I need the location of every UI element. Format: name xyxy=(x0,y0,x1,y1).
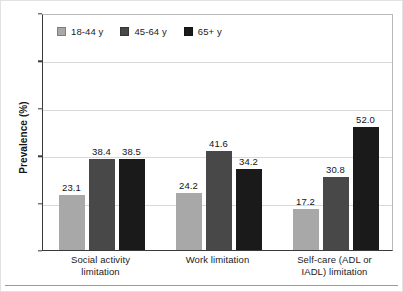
bar-value-label: 17.2 xyxy=(296,196,315,207)
x-category-label-line: IADL) limitation xyxy=(276,266,393,278)
bar-column[interactable]: 30.8 xyxy=(323,164,349,250)
bar-value-label: 34.2 xyxy=(239,156,258,167)
bar-column[interactable]: 38.4 xyxy=(89,146,115,250)
bar-value-label: 30.8 xyxy=(326,164,345,175)
y-axis-title: Prevalence (%) xyxy=(18,63,29,213)
bar-column[interactable]: 24.2 xyxy=(176,180,202,250)
x-category-label-line: Work limitation xyxy=(159,254,276,266)
x-category-label-line: Self-care (ADL or xyxy=(276,254,393,266)
chart-figure: 020406080100 Prevalence (%) 18-44 y45-64… xyxy=(0,0,403,292)
bar-rect[interactable] xyxy=(89,159,115,250)
bar-column[interactable]: 23.1 xyxy=(59,182,85,250)
bar-column[interactable]: 38.5 xyxy=(119,146,145,250)
bar-rect[interactable] xyxy=(293,209,319,250)
bar-rect[interactable] xyxy=(176,193,202,250)
x-category-label: Social activitylimitation xyxy=(42,254,159,277)
bar-rect[interactable] xyxy=(323,177,349,250)
x-category-label-line: Social activity xyxy=(42,254,159,266)
bar-value-label: 23.1 xyxy=(62,182,81,193)
x-category-label: Self-care (ADL orIADL) limitation xyxy=(276,254,393,277)
bar-column[interactable]: 17.2 xyxy=(293,196,319,250)
bar-column[interactable]: 41.6 xyxy=(206,138,232,250)
bar-rect[interactable] xyxy=(236,169,262,250)
bottom-divider xyxy=(5,285,398,286)
bars-layer: 23.138.438.524.241.634.217.230.852.0 xyxy=(43,15,392,250)
bar-value-label: 52.0 xyxy=(356,114,375,125)
bar-value-label: 24.2 xyxy=(179,180,198,191)
bar-rect[interactable] xyxy=(206,151,232,250)
bar-value-label: 38.4 xyxy=(92,146,111,157)
x-category-label: Work limitation xyxy=(159,254,276,266)
bar-rect[interactable] xyxy=(59,195,85,250)
bar-value-label: 41.6 xyxy=(209,138,228,149)
bar-rect[interactable] xyxy=(353,127,379,250)
bar-rect[interactable] xyxy=(119,159,145,250)
bar-column[interactable]: 52.0 xyxy=(353,114,379,250)
bar-value-label: 38.5 xyxy=(122,146,141,157)
x-axis-category-labels: Social activitylimitationWork limitation… xyxy=(42,254,393,288)
x-category-label-line: limitation xyxy=(42,266,159,278)
bar-column[interactable]: 34.2 xyxy=(236,156,262,250)
plot-area: 18-44 y45-64 y65+ y 23.138.438.524.241.6… xyxy=(42,14,393,251)
